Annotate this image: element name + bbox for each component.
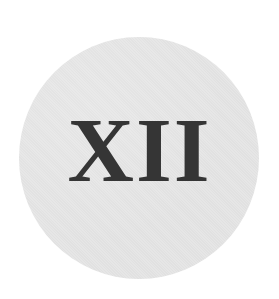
roman-numeral-twelve: XII: [0, 104, 279, 196]
